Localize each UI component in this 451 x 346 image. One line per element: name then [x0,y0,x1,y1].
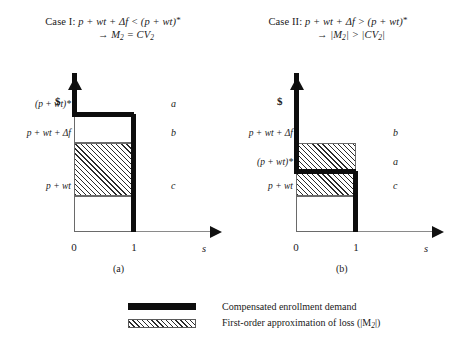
panel-b-value-label-p-wt-star: (p + wt)* [257,157,293,167]
legend-item-demand: Compensated enrollment demand [128,298,380,315]
panel-a-value-label-p-wt-df: p + wt + Δf [27,128,71,138]
panel-b-point-c: c [393,180,397,191]
panel-a-point-c: c [171,180,175,191]
panel-b-region-below-c [296,196,356,232]
panel-a-x-axis-arrow-icon [210,226,222,238]
panel-a-demand-segment-horizontal [72,112,134,117]
figure-root: Case I: p + wt + Δf < (p + wt)* → M2 = C… [0,0,451,346]
legend-item-loss: First-order approximation of loss (|M2|) [128,315,380,332]
panel-a-region-b-to-a [74,114,134,143]
panel-b-point-a: a [393,156,398,167]
legend-swatch-solid-line-icon [128,303,196,310]
panel-a-value-label-p-wt-star: (p + wt)* [35,99,71,109]
panel-b-title: Case II: p + wt + Δf > (p + wt)* → |M2| … [225,14,451,44]
panel-b-value-label-p-wt-df: p + wt + Δf [249,128,293,138]
panel-a-hatched-loss-region [74,143,134,196]
panel-b-hatched-loss-region-lower [296,171,356,196]
panel-b-y-axis-label: $ [277,95,283,107]
panel-b-title-line2: → |M2| > |CV2| [225,28,451,44]
legend: Compensated enrollment demand First-orde… [128,298,380,332]
panel-a-title: Case I: p + wt + Δf < (p + wt)* → M2 = C… [0,14,226,44]
legend-swatch-hatched-box-icon [128,319,196,328]
panel-b-value-label-p-wt: p + wt [268,181,293,191]
panel-b-demand-segment-vertical-top [294,73,299,174]
panel-b-x-axis-label: s [424,243,428,254]
panel-a-point-b: b [171,127,176,138]
panel-b-plot: $ s 0 1 p + wt + Δf (p + wt)* p + wt b a… [236,62,448,258]
panel-b-point-b: b [393,127,398,138]
panel-a-point-a: a [171,98,176,109]
panel-a-demand-segment-vertical-quantity [131,114,136,232]
panel-b-xtick-1: 1 [346,241,366,253]
panel-a-xtick-1: 1 [124,241,144,253]
panel-a-value-label-p-wt: p + wt [46,181,71,191]
panel-b-title-line1: Case II: p + wt + Δf > (p + wt)* [268,16,407,27]
panel-a-title-line2: → M2 = CV2 [0,28,226,44]
panel-b-xtick-0: 0 [286,241,306,253]
panel-b-x-axis-arrow-icon [432,226,444,238]
panel-a-caption: (a) [113,263,124,274]
panel-a-demand-segment-vertical-top [72,73,77,117]
panel-b-caption: (b) [336,263,348,274]
panel-a-plot: $ s 0 1 (p + wt)* p + wt + Δf p + wt a b… [14,62,226,258]
panel-a-title-line1: Case I: p + wt + Δf < (p + wt)* [45,16,180,27]
panel-b-demand-segment-vertical-quantity [353,171,358,232]
panel-a-x-axis-label: s [202,243,206,254]
legend-label-demand: Compensated enrollment demand [222,301,356,312]
panel-a-xtick-0: 0 [64,241,84,253]
panel-a-region-below-c [74,196,134,232]
panel-b-hatched-loss-region-upper [296,143,356,171]
legend-label-loss: First-order approximation of loss (|M2|) [222,317,380,330]
panel-b-demand-segment-horizontal [294,169,356,174]
